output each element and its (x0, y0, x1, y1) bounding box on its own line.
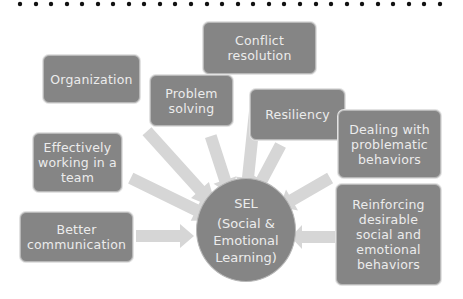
node-label: Reinforcing desirable social and emotion… (351, 197, 426, 272)
node-label: Dealing with problematic behaviors (347, 122, 432, 167)
node-better-communication: Better communication (20, 212, 133, 262)
node-label: Better communication (27, 222, 126, 252)
node-resiliency: Resiliency (250, 89, 345, 140)
center-node-sel: SEL (Social & Emotional Learning) (196, 178, 296, 282)
node-label: Conflict resolution (208, 33, 311, 63)
arrow-reinforcing (291, 225, 337, 249)
center-line-1: (Social & (217, 215, 275, 232)
node-label: Organization (50, 72, 132, 87)
center-line-2: Emotional (213, 232, 278, 249)
node-label: Resiliency (265, 107, 330, 122)
node-organization: Organization (43, 55, 140, 103)
center-line-3: Learning) (215, 249, 277, 266)
node-reinforcing-desirable-behaviors: Reinforcing desirable social and emotion… (336, 184, 441, 285)
arrow-communication (136, 224, 194, 248)
node-label: Problem solving (163, 86, 220, 116)
node-label: Effectively working in a team (37, 140, 118, 185)
node-conflict-resolution: Conflict resolution (203, 22, 316, 74)
center-title: SEL (234, 195, 258, 212)
node-dealing-with-problematic-behaviors: Dealing with problematic behaviors (338, 110, 441, 178)
node-effectively-working-in-a-team: Effectively working in a team (33, 133, 122, 192)
node-problem-solving: Problem solving (150, 75, 233, 126)
